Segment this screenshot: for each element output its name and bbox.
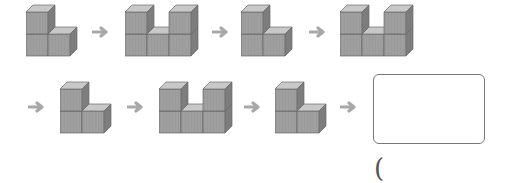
- cube: [169, 5, 198, 34]
- cube: [384, 5, 413, 34]
- cube: [125, 5, 154, 34]
- cube: [48, 27, 77, 56]
- arrow-shape: [341, 103, 354, 111]
- cube-figure-7: [275, 80, 333, 134]
- cube-figure-4: [340, 3, 416, 57]
- arrow-right-icon: [28, 101, 46, 113]
- cube: [275, 82, 304, 111]
- cube-figure-6: [159, 80, 235, 134]
- cube: [263, 27, 292, 56]
- cube: [60, 82, 89, 111]
- arrow-right-icon: [340, 101, 358, 113]
- cube-figure-1: [26, 3, 84, 57]
- cube: [241, 5, 270, 34]
- answer-parenthesis: (: [374, 155, 384, 181]
- arrow-right-icon: [92, 26, 110, 38]
- arrow-right-icon: [212, 26, 230, 38]
- arrow-shape: [245, 103, 258, 111]
- arrow-shape: [310, 28, 323, 36]
- arrow-shape: [29, 103, 42, 111]
- cube-figure-5: [60, 80, 118, 134]
- cube: [26, 5, 55, 34]
- cube-figure-3: [241, 3, 299, 57]
- arrow-right-icon: [244, 101, 262, 113]
- arrow-right-icon: [309, 26, 327, 38]
- cube: [297, 104, 326, 133]
- cube: [203, 82, 232, 111]
- arrow-shape: [128, 103, 141, 111]
- cube: [159, 82, 188, 111]
- cube-figure-2: [125, 3, 201, 57]
- cube: [340, 5, 369, 34]
- arrow-shape: [93, 28, 106, 36]
- arrow-shape: [213, 28, 226, 36]
- answer-box[interactable]: [373, 74, 485, 144]
- cube: [82, 104, 111, 133]
- arrow-right-icon: [127, 101, 145, 113]
